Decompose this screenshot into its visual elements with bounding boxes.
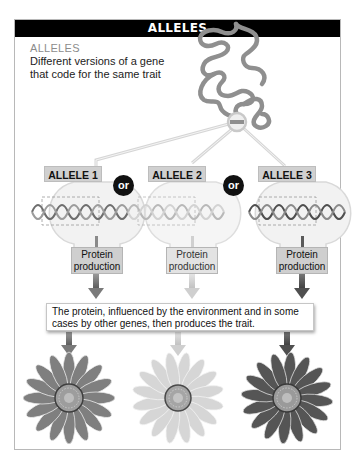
arrow-down-icon	[294, 274, 310, 299]
trait-explanation-box: The protein, influenced by the environme…	[46, 303, 314, 331]
arrow-down-icon	[279, 332, 295, 356]
arrow-down-icon	[88, 274, 104, 299]
protein-production-box-1: Protein production	[71, 247, 123, 274]
arrow-down-icon	[170, 332, 186, 356]
diagram-graphics	[0, 0, 355, 461]
sunflower-icon	[132, 352, 225, 445]
allele-2-label: ALLELE 2	[148, 166, 206, 182]
sunflower-icon	[241, 352, 334, 445]
or-badge: or	[223, 175, 244, 196]
or-badge: or	[113, 175, 134, 196]
magnifier-circle-icon	[228, 113, 246, 131]
sunflower-icon	[23, 352, 115, 444]
allele-3-label: ALLELE 3	[258, 166, 316, 182]
arrow-down-icon	[184, 274, 200, 299]
protein-production-box-3: Protein production	[276, 247, 328, 274]
allele-1-label: ALLELE 1	[44, 166, 102, 182]
protein-production-box-2: Protein production	[166, 247, 218, 274]
